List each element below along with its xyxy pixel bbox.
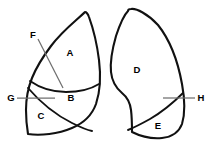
callout-label-g: G: [7, 92, 14, 103]
lung-diagram-canvas: A B C D E F G H: [0, 0, 213, 151]
lobe-label-c: C: [38, 110, 45, 121]
callout-label-f: F: [30, 29, 36, 40]
lung-diagram-figure: A B C D E F G H: [0, 0, 213, 151]
lobe-label-d: D: [134, 64, 141, 75]
right-lung-outline: [111, 9, 185, 138]
lobe-label-e: E: [155, 120, 161, 131]
lobe-label-a: A: [67, 47, 74, 58]
left-lung-horizontal-fissure: [30, 81, 99, 92]
callout-label-h: H: [198, 92, 205, 103]
lobe-label-b: B: [68, 92, 75, 103]
